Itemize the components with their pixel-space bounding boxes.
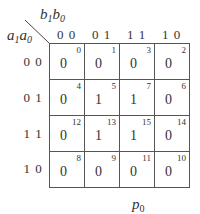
minterm-index: 1 <box>112 45 117 55</box>
minterm-index: 4 <box>77 81 82 91</box>
row-variables-label: a1a0 <box>7 27 32 45</box>
row-header-00: 0 0 <box>20 54 46 70</box>
minterm-index: 9 <box>112 153 117 163</box>
cell-value: 0 <box>130 164 137 180</box>
column-header-01: 0 1 <box>84 27 119 43</box>
cell-value: 1 <box>130 128 137 144</box>
cell-value: 0 <box>165 92 172 108</box>
cell-value: 0 <box>60 128 67 144</box>
minterm-index: 15 <box>142 117 151 127</box>
cell-m9: 0 9 <box>85 152 120 188</box>
minterm-index: 2 <box>182 45 187 55</box>
col-var-b1-base: b <box>40 6 48 22</box>
row-header-10: 1 0 <box>20 161 46 177</box>
cell-m11: 0 11 <box>120 152 155 188</box>
minterm-index: 3 <box>147 45 152 55</box>
cell-value: 0 <box>130 56 137 72</box>
cell-m12: 0 12 <box>50 116 85 152</box>
cell-m0: 0 0 <box>50 44 85 80</box>
cell-value: 0 <box>95 56 102 72</box>
column-header-00: 0 0 <box>49 27 84 43</box>
row-var-a0-sub: 0 <box>27 34 32 45</box>
minterm-index: 0 <box>77 45 82 55</box>
column-variables-label: b1b0 <box>40 6 65 24</box>
cell-m8: 0 8 <box>50 152 85 188</box>
minterm-index: 12 <box>72 117 81 127</box>
cell-value: 1 <box>95 128 102 144</box>
cell-value: 0 <box>165 56 172 72</box>
row-var-a1-base: a <box>7 27 15 43</box>
minterm-index: 7 <box>147 81 152 91</box>
cell-m15: 1 15 <box>120 116 155 152</box>
row-header-11: 1 1 <box>20 126 46 142</box>
minterm-index: 8 <box>77 153 82 163</box>
minterm-index: 5 <box>112 81 117 91</box>
cell-m13: 1 13 <box>85 116 120 152</box>
cell-m14: 0 14 <box>155 116 190 152</box>
caption-sub: 0 <box>140 203 145 214</box>
cell-value: 0 <box>60 164 67 180</box>
cell-m2: 0 2 <box>155 44 190 80</box>
cell-m7: 1 7 <box>120 80 155 116</box>
cell-value: 0 <box>60 92 67 108</box>
column-header-11: 1 1 <box>119 27 154 43</box>
map-caption: p0 <box>132 196 145 214</box>
row-var-a0-base: a <box>20 27 28 43</box>
karnaugh-map-grid: 0 0 0 1 0 3 0 2 0 4 1 5 1 7 0 6 0 12 1 1… <box>49 43 190 188</box>
cell-value: 0 <box>165 128 172 144</box>
cell-value: 0 <box>60 56 67 72</box>
col-var-b0-base: b <box>53 6 61 22</box>
cell-m3: 0 3 <box>120 44 155 80</box>
minterm-index: 14 <box>177 117 186 127</box>
cell-m4: 0 4 <box>50 80 85 116</box>
cell-value: 0 <box>95 164 102 180</box>
minterm-index: 10 <box>177 153 186 163</box>
cell-m5: 1 5 <box>85 80 120 116</box>
cell-value: 1 <box>130 92 137 108</box>
cell-m10: 0 10 <box>155 152 190 188</box>
minterm-index: 13 <box>107 117 116 127</box>
cell-value: 1 <box>95 92 102 108</box>
cell-m6: 0 6 <box>155 80 190 116</box>
caption-base: p <box>132 196 140 212</box>
minterm-index: 6 <box>182 81 187 91</box>
column-header-10: 1 0 <box>154 27 189 43</box>
cell-value: 0 <box>165 164 172 180</box>
col-var-b0-sub: 0 <box>60 13 65 24</box>
minterm-index: 11 <box>142 153 151 163</box>
cell-m1: 0 1 <box>85 44 120 80</box>
row-header-01: 0 1 <box>20 90 46 106</box>
